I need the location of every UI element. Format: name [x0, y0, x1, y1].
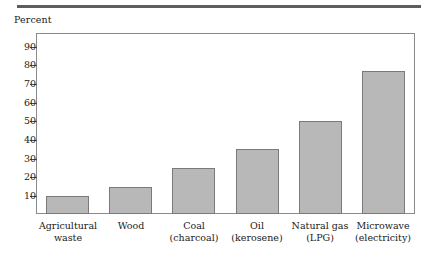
x-axis-label-line1: Microwave	[356, 220, 409, 231]
bar	[362, 71, 405, 214]
y-axis-tick-label: 10	[10, 191, 36, 201]
y-axis-tick-label: 20	[10, 172, 36, 182]
x-axis-tick-label: Microwave(electricity)	[338, 220, 428, 243]
bar	[172, 168, 215, 214]
y-axis-tick-label: 80	[10, 60, 36, 70]
y-axis-tick-label: 40	[10, 135, 36, 145]
bar	[236, 149, 279, 214]
y-axis-tick-label: 90	[10, 42, 36, 52]
x-axis-label-line1: Oil	[250, 220, 264, 231]
bar	[109, 187, 152, 214]
top-horizontal-rule	[17, 5, 421, 8]
y-axis-tick-label: 70	[10, 79, 36, 89]
y-axis-tick-label: 30	[10, 154, 36, 164]
bar	[46, 196, 89, 214]
y-axis-tick-label: 60	[10, 98, 36, 108]
x-axis-label-line1: Coal	[183, 220, 205, 231]
x-axis-label-line2: waste	[23, 232, 113, 244]
x-axis-label-line1: Wood	[118, 220, 145, 231]
plot-area	[36, 33, 415, 214]
y-axis-tick-label: 50	[10, 116, 36, 126]
x-axis-label-line2: (electricity)	[338, 232, 428, 244]
bar	[299, 121, 342, 214]
